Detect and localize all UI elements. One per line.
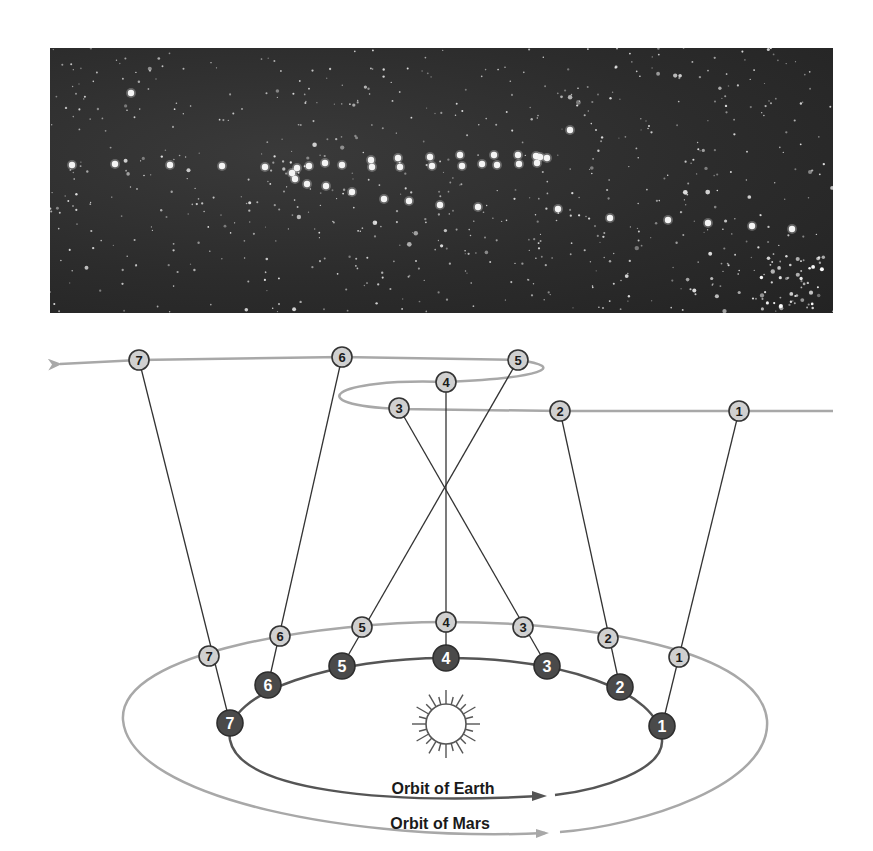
earth-marker-label: 7	[226, 715, 235, 732]
mars-marker-label: 6	[276, 629, 283, 644]
mars-marker-label: 4	[442, 615, 450, 630]
sky-marker-label: 1	[735, 404, 742, 419]
sight-line-7	[139, 360, 230, 723]
mars-marker-label: 3	[519, 620, 526, 635]
sky-marker-1: 1	[729, 401, 749, 421]
mars-marker-1: 1	[669, 647, 689, 667]
sky-marker-label: 3	[395, 401, 402, 416]
earth-marker-label: 6	[264, 677, 273, 694]
sky-marker-4: 4	[436, 372, 456, 392]
sky-marker-5: 5	[508, 350, 528, 370]
mars-marker-label: 2	[604, 631, 611, 646]
earth-marker-label: 1	[658, 718, 667, 735]
mars-marker-6: 6	[270, 626, 290, 646]
sky-marker-7: 7	[129, 350, 149, 370]
mars-marker-label: 5	[358, 620, 365, 635]
earth-marker-label: 4	[442, 650, 451, 667]
mars-marker-label: 1	[675, 650, 682, 665]
earth-marker-2: 2	[607, 674, 633, 700]
earth-marker-label: 3	[543, 658, 552, 675]
mars-orbit-label: Orbit of Mars	[390, 815, 490, 832]
sight-line-1	[662, 411, 739, 726]
sight-lines	[139, 357, 739, 726]
earth-marker-1: 1	[649, 713, 675, 739]
sun-icon	[412, 690, 480, 758]
mars-marker-4: 4	[436, 612, 456, 632]
mars-marker-label: 7	[205, 649, 212, 664]
sky-marker-2: 2	[550, 401, 570, 421]
sky-marker-label: 4	[442, 375, 450, 390]
mars-marker-2: 2	[598, 628, 618, 648]
earth-marker-5: 5	[329, 653, 355, 679]
earth-marker-label: 5	[338, 658, 347, 675]
sky-marker-3: 3	[389, 398, 409, 418]
mars-marker-7: 7	[199, 646, 219, 666]
sky-marker-6: 6	[332, 347, 352, 367]
earth-marker-label: 2	[616, 679, 625, 696]
mars-marker-3: 3	[513, 617, 533, 637]
earth-marker-6: 6	[255, 672, 281, 698]
earth-marker-7: 7	[217, 710, 243, 736]
retrograde-diagram: 1234567 1234567 1234567 Orbit of Earth O…	[0, 0, 873, 851]
earth-marker-4: 4	[433, 645, 459, 671]
sky-marker-label: 2	[556, 404, 563, 419]
sky-marker-label: 5	[514, 353, 521, 368]
mars-marker-5: 5	[352, 617, 372, 637]
earth-orbit-label: Orbit of Earth	[391, 780, 494, 797]
sky-marker-label: 6	[338, 350, 345, 365]
earth-marker-3: 3	[534, 653, 560, 679]
earth-orbit-arrow-icon	[532, 791, 547, 801]
sky-marker-label: 7	[135, 353, 142, 368]
mars-orbit-arrow-icon	[536, 829, 549, 838]
